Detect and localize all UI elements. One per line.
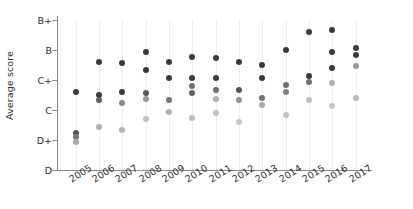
x-tick-label: 2009: [160, 162, 186, 184]
data-point: [143, 116, 149, 122]
data-point: [213, 96, 219, 102]
data-point: [96, 97, 102, 103]
data-point: [213, 55, 219, 61]
data-point: [353, 63, 359, 69]
data-point: [329, 27, 335, 33]
data-point: [119, 127, 125, 133]
data-point: [213, 87, 219, 93]
data-point: [306, 79, 312, 85]
y-axis-line: [57, 16, 58, 171]
data-point: [213, 75, 219, 81]
data-point: [259, 62, 265, 68]
x-tick-label: 2014: [277, 162, 303, 184]
data-point: [306, 29, 312, 35]
data-point: [236, 97, 242, 103]
data-point: [259, 75, 265, 81]
y-tick-label: B+: [38, 14, 52, 25]
y-tick-label: D: [45, 165, 52, 176]
y-axis-title: Average score: [2, 0, 16, 170]
x-tick-label: 2011: [207, 162, 233, 184]
data-point: [236, 87, 242, 93]
x-tick-label: 2007: [113, 162, 139, 184]
data-point: [329, 49, 335, 55]
data-point: [329, 80, 335, 86]
data-point: [73, 89, 79, 95]
y-tick-label: C: [45, 104, 52, 115]
data-point: [189, 115, 195, 121]
data-point: [353, 45, 359, 51]
data-point: [283, 89, 289, 95]
data-point: [306, 97, 312, 103]
data-point: [283, 82, 289, 88]
y-tick-label: C+: [37, 74, 52, 85]
data-point: [166, 59, 172, 65]
x-tick-label: 2005: [67, 162, 93, 184]
data-point: [96, 124, 102, 130]
x-tick-label: 2017: [347, 162, 373, 184]
data-point: [96, 59, 102, 65]
data-point: [353, 95, 359, 101]
data-point: [143, 67, 149, 73]
data-point: [329, 103, 335, 109]
x-tick-label: 2008: [137, 162, 163, 184]
data-point: [236, 59, 242, 65]
data-point: [143, 49, 149, 55]
data-point: [259, 102, 265, 108]
data-point: [283, 47, 289, 53]
grid-line-2007: [122, 20, 123, 171]
x-tick-label: 2013: [253, 162, 279, 184]
y-axis-tick-labels: B+BC+CD+D: [18, 0, 52, 209]
data-point: [166, 75, 172, 81]
data-point: [166, 109, 172, 115]
grid-line-2012: [239, 20, 240, 171]
y-tick-label: D+: [37, 134, 52, 145]
data-point: [213, 110, 219, 116]
data-point: [119, 100, 125, 106]
data-point: [189, 75, 195, 81]
grid-line-2005: [76, 20, 77, 171]
x-tick-label: 2016: [323, 162, 349, 184]
data-point: [236, 119, 242, 125]
x-tick-label: 2015: [300, 162, 326, 184]
data-point: [353, 52, 359, 58]
grid-line-2016: [332, 20, 333, 171]
grid-line-2011: [216, 20, 217, 171]
grid-line-2015: [309, 20, 310, 171]
grid-line-2009: [169, 20, 170, 171]
data-point: [329, 65, 335, 71]
data-point: [189, 54, 195, 60]
data-point: [189, 90, 195, 96]
x-tick-label: 2012: [230, 162, 256, 184]
data-point: [283, 112, 289, 118]
data-point: [259, 95, 265, 101]
x-tick-label: 2006: [90, 162, 116, 184]
x-tick-label: 2010: [183, 162, 209, 184]
data-point: [119, 60, 125, 66]
data-point: [143, 96, 149, 102]
data-point: [189, 83, 195, 89]
scatter-chart: Average score B+BC+CD+D 2005200620072008…: [0, 0, 413, 209]
data-point: [119, 89, 125, 95]
data-point: [166, 97, 172, 103]
data-point: [73, 139, 79, 145]
